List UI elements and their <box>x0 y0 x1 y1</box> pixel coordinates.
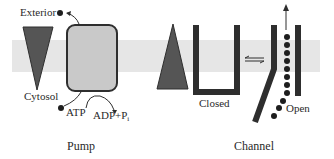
exterior-arrowhead <box>66 11 71 16</box>
atp-hydrolysis-arrow <box>86 96 114 110</box>
diagram-graphics <box>0 0 334 159</box>
adp-pi-label: ADP+Pi <box>93 110 129 123</box>
open-channel-right-wall <box>295 25 301 96</box>
adp-label-text: ADP+P <box>93 109 127 121</box>
cytosol-entry-curve <box>64 92 81 106</box>
open-label: Open <box>286 103 310 114</box>
cytosol-ion-dot <box>58 105 64 111</box>
open-channel-left-wall <box>255 25 274 122</box>
membrane-transport-diagram: Exterior Cytosol ATP ADP+Pi Pump Closed … <box>0 0 334 159</box>
channel-caption: Channel <box>234 140 274 152</box>
pump-protein-box <box>67 25 117 91</box>
adp-subscript: i <box>127 115 129 123</box>
pump-caption: Pump <box>67 140 95 152</box>
ion-exit-arrowhead <box>283 4 289 11</box>
atp-label: ATP <box>66 107 86 118</box>
exterior-label: Exterior <box>20 7 56 18</box>
closed-label: Closed <box>199 98 230 109</box>
exterior-ion-dot <box>57 10 63 16</box>
cytosol-label: Cytosol <box>24 91 58 102</box>
